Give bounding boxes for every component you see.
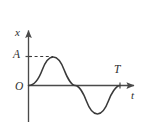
plot-canvas (0, 0, 151, 130)
period-label: T (114, 64, 120, 76)
horizontal-axis-label: t (131, 90, 134, 101)
vertical-axis-label: x (15, 27, 20, 38)
figure-root: x t O A T (0, 0, 151, 130)
amplitude-label: A (13, 49, 20, 61)
origin-label: O (15, 81, 23, 93)
